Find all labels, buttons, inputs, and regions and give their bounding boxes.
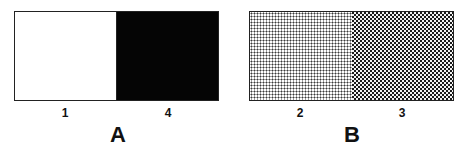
panel-label-b: B [337, 122, 367, 148]
cell-1-white [15, 12, 117, 100]
panel-a-box [14, 11, 219, 101]
cell-2-light-dotted [250, 12, 352, 100]
cell-number-2: 2 [290, 106, 310, 120]
cell-4-black [117, 12, 218, 100]
cell-3-dark-dotted [352, 12, 454, 100]
cell-number-3: 3 [392, 106, 412, 120]
panel-label-a: A [103, 122, 133, 148]
cell-number-4: 4 [158, 106, 178, 120]
cell-number-1: 1 [55, 106, 75, 120]
panel-b-box [249, 11, 454, 101]
